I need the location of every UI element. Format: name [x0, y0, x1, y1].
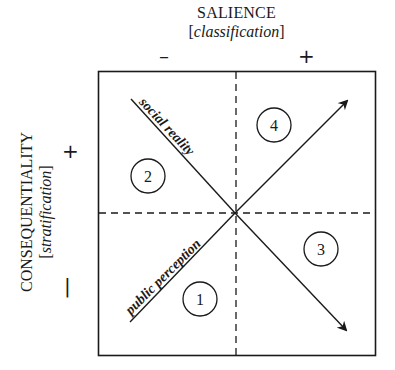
quadrant-1-number: 1 — [196, 291, 204, 308]
social-reality-line — [131, 99, 235, 213]
quadrant-3-number: 3 — [317, 241, 325, 258]
quadrant-4-number: 4 — [270, 117, 278, 134]
social-reality-label: social reality — [136, 94, 199, 159]
arrow-down-right — [235, 213, 346, 330]
arrow-up-right — [235, 101, 347, 213]
public-perception-label: public perception — [122, 236, 204, 318]
quadrant-diagram: social reality public perception 2 4 3 1 — [0, 0, 395, 370]
quadrant-2-number: 2 — [144, 168, 152, 185]
